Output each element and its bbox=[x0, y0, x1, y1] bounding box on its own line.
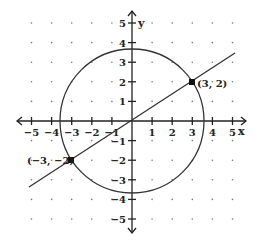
grid-dot bbox=[31, 218, 33, 220]
grid-dot bbox=[111, 42, 113, 44]
grid-dot bbox=[192, 22, 194, 24]
x-tick-label: 1 bbox=[149, 127, 156, 138]
grid-dot bbox=[192, 140, 194, 142]
grid-dot bbox=[171, 218, 173, 220]
grid-dot bbox=[212, 199, 214, 201]
grid-dot bbox=[151, 159, 153, 161]
grid-dot bbox=[91, 218, 93, 220]
grid-dot bbox=[151, 140, 153, 142]
grid-dot bbox=[151, 22, 153, 24]
grid-dot bbox=[71, 140, 73, 142]
grid-dot bbox=[71, 218, 73, 220]
point-3-2 bbox=[189, 79, 195, 85]
grid-dot bbox=[91, 81, 93, 83]
grid-dot bbox=[151, 199, 153, 201]
y-tick-label: 5 bbox=[119, 18, 126, 29]
grid-dot bbox=[91, 101, 93, 103]
x-tick-label: −4 bbox=[44, 127, 59, 138]
x-tick-label: 3 bbox=[189, 127, 196, 138]
grid-dot bbox=[171, 140, 173, 142]
grid-dot bbox=[51, 199, 53, 201]
x-tick-label: −2 bbox=[84, 127, 99, 138]
grid-dot bbox=[232, 81, 234, 83]
x-tick-label: 5 bbox=[229, 127, 236, 138]
grid-dot bbox=[91, 199, 93, 201]
grid-dot bbox=[51, 101, 53, 103]
grid-dot bbox=[212, 101, 214, 103]
grid-dot bbox=[192, 218, 194, 220]
grid-dot bbox=[111, 101, 113, 103]
grid-dot bbox=[192, 42, 194, 44]
y-tick-label: 3 bbox=[119, 57, 126, 68]
grid-dot bbox=[232, 179, 234, 181]
grid-dot bbox=[151, 101, 153, 103]
grid-dot bbox=[232, 199, 234, 201]
grid-dot bbox=[192, 179, 194, 181]
grid-dot bbox=[212, 61, 214, 63]
grid-dot bbox=[31, 199, 33, 201]
grid-dot bbox=[232, 159, 234, 161]
grid-dot bbox=[232, 140, 234, 142]
point-label-neg3-neg2: (−3, −2) bbox=[27, 155, 74, 167]
y-tick-label: −3 bbox=[111, 175, 126, 186]
grid-dot bbox=[71, 61, 73, 63]
graph-canvas: −5−4−3−2−112345 54321−1−2−3−4−5 x y (3, … bbox=[0, 0, 259, 242]
y-tick-label: 2 bbox=[119, 77, 126, 88]
grid-dot bbox=[171, 101, 173, 103]
grid-dot bbox=[171, 81, 173, 83]
y-tick-label: −4 bbox=[111, 194, 126, 205]
grid-dot bbox=[212, 159, 214, 161]
grid-dot bbox=[171, 22, 173, 24]
grid-dot bbox=[151, 61, 153, 63]
grid-dot bbox=[51, 179, 53, 181]
grid-dot bbox=[212, 42, 214, 44]
y-tick-label: −5 bbox=[111, 214, 126, 225]
grid-dot bbox=[71, 42, 73, 44]
grid-dot bbox=[171, 159, 173, 161]
grid-dot bbox=[71, 199, 73, 201]
point-label-3-2: (3, 2) bbox=[197, 78, 227, 90]
y-axis-label: y bbox=[137, 17, 145, 30]
grid-dot bbox=[71, 101, 73, 103]
grid-dot bbox=[91, 159, 93, 161]
grid-dot bbox=[111, 81, 113, 83]
grid-dot bbox=[31, 81, 33, 83]
grid-dot bbox=[51, 218, 53, 220]
grid-dot bbox=[212, 218, 214, 220]
grid-dot bbox=[31, 61, 33, 63]
grid-dot bbox=[232, 101, 234, 103]
grid-dot bbox=[232, 42, 234, 44]
y-tick-label: 1 bbox=[119, 96, 126, 107]
grid-dot bbox=[71, 179, 73, 181]
grid-dot bbox=[192, 101, 194, 103]
grid-dot bbox=[111, 61, 113, 63]
grid-dot bbox=[151, 179, 153, 181]
grid-dot bbox=[171, 199, 173, 201]
grid-dot bbox=[232, 22, 234, 24]
grid-dot bbox=[212, 140, 214, 142]
grid-dot bbox=[91, 22, 93, 24]
grid-dot bbox=[51, 42, 53, 44]
grid-dot bbox=[51, 22, 53, 24]
grid-dot bbox=[31, 140, 33, 142]
grid-dot bbox=[151, 42, 153, 44]
grid-dot bbox=[51, 81, 53, 83]
grid-dot bbox=[111, 22, 113, 24]
grid-dot bbox=[212, 22, 214, 24]
grid-dot bbox=[232, 218, 234, 220]
grid-dot bbox=[192, 199, 194, 201]
grid-dot bbox=[31, 179, 33, 181]
grid-dot bbox=[31, 101, 33, 103]
grid-dot bbox=[51, 140, 53, 142]
y-tick-label: 4 bbox=[119, 38, 126, 49]
y-tick-label: −1 bbox=[111, 136, 126, 147]
y-tick-label: −2 bbox=[111, 155, 126, 166]
grid-dot bbox=[51, 61, 53, 63]
grid-dot bbox=[71, 22, 73, 24]
grid-dot bbox=[91, 42, 93, 44]
grid-dot bbox=[31, 42, 33, 44]
x-tick-label: −3 bbox=[64, 127, 79, 138]
grid-dot bbox=[212, 179, 214, 181]
x-tick-label: −5 bbox=[24, 127, 39, 138]
x-axis-label: x bbox=[238, 125, 245, 138]
